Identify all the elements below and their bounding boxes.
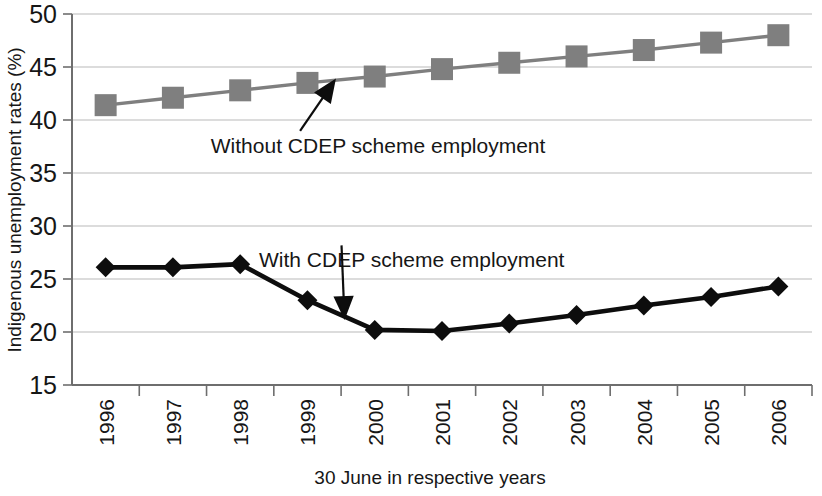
annotation-label: Without CDEP scheme employment — [211, 134, 546, 157]
x-tick-label: 2006 — [767, 399, 790, 446]
y-tick-label: 20 — [29, 318, 57, 346]
series-without-cdep — [95, 24, 790, 116]
x-tick-label: 2002 — [498, 399, 521, 446]
data-point-marker — [431, 58, 453, 80]
data-point-marker — [498, 52, 520, 74]
data-point-marker — [566, 45, 588, 67]
data-point-marker — [365, 320, 385, 340]
data-point-marker — [567, 305, 587, 325]
line-chart: 1520253035404550 19961997199819992000200… — [0, 0, 822, 496]
chart-annotations: Without CDEP scheme employmentWith CDEP … — [211, 81, 565, 317]
x-tick-label: 2005 — [700, 399, 723, 446]
y-tick-label: 25 — [29, 265, 57, 293]
series-path — [106, 264, 779, 331]
data-point-marker — [701, 287, 721, 307]
x-tick-label: 2004 — [633, 399, 656, 446]
x-tick-label: 2003 — [566, 399, 589, 446]
data-point-marker — [364, 66, 386, 88]
chart-container: 1520253035404550 19961997199819992000200… — [0, 0, 822, 496]
data-point-marker — [229, 79, 251, 101]
y-axis-title: Indigenous unemployment rates (%) — [4, 47, 25, 352]
data-point-marker — [633, 39, 655, 61]
annotation-arrow-head — [316, 81, 334, 102]
y-tick-label: 40 — [29, 106, 57, 134]
x-axis-ticks: 1996199719981999200020012002200320042005… — [95, 385, 812, 446]
data-point-marker — [162, 87, 184, 109]
annotation-arrow-shaft — [300, 97, 323, 131]
data-point-marker — [634, 296, 654, 316]
y-tick-label: 45 — [29, 53, 57, 81]
annotation-label: With CDEP scheme employment — [259, 248, 565, 271]
data-point-marker — [230, 254, 250, 274]
y-axis-ticks: 1520253035404550 — [29, 0, 72, 399]
data-point-marker — [96, 257, 116, 277]
y-tick-label: 50 — [29, 0, 57, 28]
x-axis-title: 30 June in respective years — [314, 467, 545, 488]
x-tick-label: 2000 — [364, 399, 387, 446]
data-point-marker — [296, 72, 318, 94]
x-tick-label: 2001 — [431, 399, 454, 446]
x-tick-label: 1996 — [95, 399, 118, 446]
data-point-marker — [163, 257, 183, 277]
x-tick-label: 1997 — [162, 399, 185, 446]
data-point-marker — [767, 24, 789, 46]
data-point-marker — [297, 290, 317, 310]
data-point-marker — [95, 94, 117, 116]
y-tick-label: 30 — [29, 212, 57, 240]
x-tick-label: 1999 — [296, 399, 319, 446]
y-tick-label: 15 — [29, 371, 57, 399]
data-point-marker — [700, 32, 722, 54]
data-point-marker — [432, 321, 452, 341]
y-tick-label: 35 — [29, 159, 57, 187]
x-tick-label: 1998 — [229, 399, 252, 446]
data-point-marker — [499, 314, 519, 334]
